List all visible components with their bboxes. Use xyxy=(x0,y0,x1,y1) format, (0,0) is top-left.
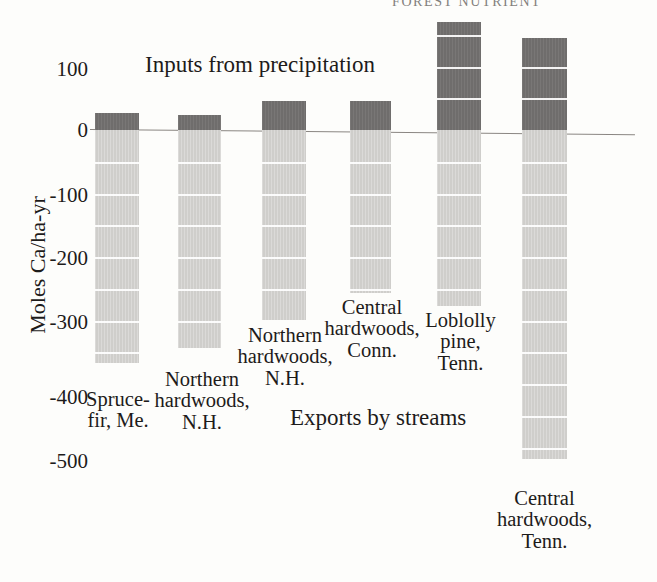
category-label-loblolly-pine-tenn: Loblolly pine, Tenn. xyxy=(413,310,508,374)
gridline xyxy=(437,289,481,291)
bar-segment-inputs[interactable] xyxy=(437,22,481,130)
y-tick-label: 0 xyxy=(0,118,88,143)
plot-area: 1000-100-200-300-400-500 Spruce- fir, Me… xyxy=(0,0,657,582)
gridline xyxy=(178,194,221,196)
category-label-central-hardwoods-conn: Central hardwoods, Conn. xyxy=(322,297,422,361)
y-tick-label: 100 xyxy=(0,57,88,82)
bar-segment-exports[interactable] xyxy=(350,130,391,293)
gridline xyxy=(350,225,391,227)
gridline xyxy=(522,162,567,164)
gridline xyxy=(95,225,139,227)
gridline xyxy=(95,257,139,259)
bar-segment-inputs[interactable] xyxy=(262,101,306,130)
bar-loblolly-pine-tenn[interactable] xyxy=(437,0,481,582)
gridline xyxy=(350,162,391,164)
gridline xyxy=(437,194,481,196)
y-tick-label: -500 xyxy=(0,449,88,474)
category-label-central-hardwoods-tenn: Central hardwoods, Tenn. xyxy=(492,488,597,552)
gridline xyxy=(95,289,139,291)
bar-segment-exports[interactable] xyxy=(95,130,139,363)
gridline xyxy=(522,67,567,69)
gridline xyxy=(350,257,391,259)
y-axis-title: Moles Ca/ha-yr xyxy=(25,165,51,365)
bar-segment-inputs[interactable] xyxy=(522,38,567,130)
bar-northern-hardwoods-nh-1[interactable] xyxy=(178,0,221,582)
gridline xyxy=(178,257,221,259)
gridline xyxy=(262,257,306,259)
bar-segment-inputs[interactable] xyxy=(350,101,391,130)
gridline xyxy=(522,352,567,354)
gridline xyxy=(522,416,567,418)
gridline xyxy=(522,98,567,100)
annotation-exports: Exports by streams xyxy=(290,405,466,431)
gridline xyxy=(95,321,139,323)
gridline xyxy=(262,225,306,227)
gridline xyxy=(522,194,567,196)
gridline xyxy=(522,257,567,259)
gridline xyxy=(178,162,221,164)
gridline xyxy=(522,384,567,386)
bar-segment-exports[interactable] xyxy=(522,130,567,459)
gridline xyxy=(522,448,567,450)
bar-spruce-fir-me[interactable] xyxy=(95,0,139,582)
gridline xyxy=(437,225,481,227)
gridline xyxy=(437,162,481,164)
category-label-northern-hardwoods-nh-2: Northern hardwoods, N.H. xyxy=(235,325,335,389)
gridline xyxy=(95,352,139,354)
gridline xyxy=(522,289,567,291)
gridline xyxy=(178,225,221,227)
gridline xyxy=(437,67,481,69)
gridline xyxy=(262,194,306,196)
bar-segment-inputs[interactable] xyxy=(178,115,221,130)
bar-segment-exports[interactable] xyxy=(178,130,221,348)
bar-northern-hardwoods-nh-2[interactable] xyxy=(262,0,306,582)
gridline xyxy=(437,257,481,259)
gridline xyxy=(178,289,221,291)
chart-figure: FOREST NUTRIENT 1000-100-200-300-400-500… xyxy=(0,0,657,582)
gridline xyxy=(262,289,306,291)
gridline xyxy=(95,194,139,196)
gridline xyxy=(437,35,481,37)
gridline xyxy=(522,321,567,323)
gridline xyxy=(178,321,221,323)
bar-segment-exports[interactable] xyxy=(437,130,481,306)
bar-segment-exports[interactable] xyxy=(262,130,306,320)
gridline xyxy=(95,162,139,164)
annotation-inputs: Inputs from precipitation xyxy=(145,52,375,78)
gridline xyxy=(350,194,391,196)
bar-segment-inputs[interactable] xyxy=(95,113,139,130)
gridline xyxy=(522,225,567,227)
bar-central-hardwoods-conn[interactable] xyxy=(350,0,391,582)
gridline xyxy=(350,289,391,291)
gridline xyxy=(262,162,306,164)
gridline xyxy=(437,98,481,100)
